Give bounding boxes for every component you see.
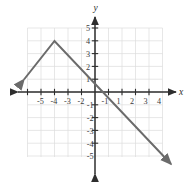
coordinate-plane-graph: -5 -4 -3 -2 -1 1 2 3 4 5 4 3 2 1 -1 -2 -… [0, 0, 195, 184]
x-tick-labels: -5 -4 -3 -2 -1 1 2 3 4 [37, 97, 161, 106]
y-tick-labels: 5 4 3 2 1 -1 -2 -3 -4 -5 [86, 24, 94, 161]
y-tick-label: 2 [86, 63, 90, 72]
graph-svg: -5 -4 -3 -2 -1 1 2 3 4 5 4 3 2 1 -1 -2 -… [0, 0, 195, 184]
y-tick-label: -5 [87, 152, 94, 161]
x-tick-label: -4 [51, 97, 58, 106]
x-tick-label: -3 [64, 97, 71, 106]
y-tick-label: -1 [87, 101, 94, 110]
y-tick-label: 5 [86, 24, 90, 33]
y-tick-label: -3 [87, 127, 94, 136]
y-tick-label: 4 [86, 37, 90, 46]
x-tick-label: 4 [157, 97, 161, 106]
x-axis-label: x [178, 87, 184, 97]
y-tick-label: -4 [87, 140, 94, 149]
y-tick-label: -2 [87, 114, 94, 123]
x-tick-label: 2 [130, 97, 134, 106]
y-tick-label: 3 [86, 50, 90, 59]
y-axis-label: y [92, 3, 98, 13]
x-tick-label: 3 [143, 97, 147, 106]
x-tick-label: 1 [116, 97, 120, 106]
x-tick-label: -5 [37, 97, 44, 106]
x-tick-label: -2 [78, 97, 85, 106]
